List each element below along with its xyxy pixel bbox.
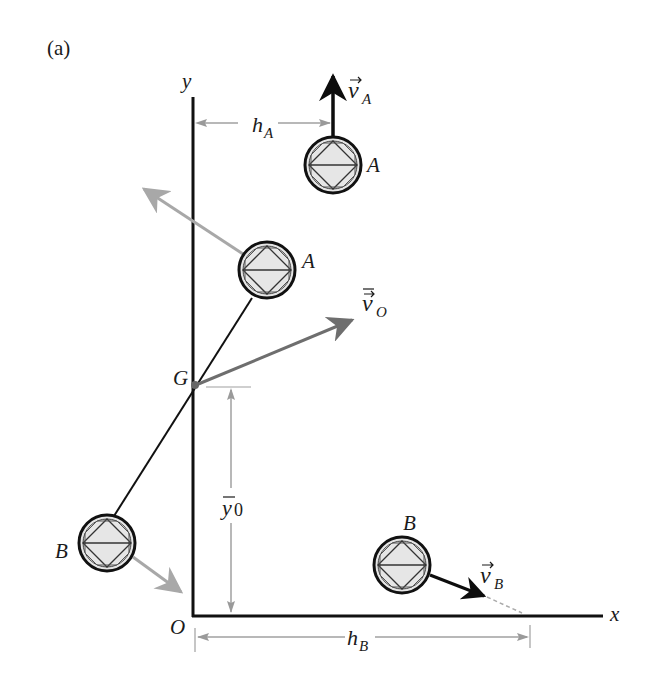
svg-text:B: B	[359, 638, 368, 654]
panel-label: (a)	[47, 36, 70, 60]
ha-dimension: h A	[195, 112, 331, 141]
svg-text:A: A	[263, 125, 274, 141]
svg-text:O: O	[376, 304, 387, 320]
svg-text:A: A	[361, 91, 372, 107]
sphere-b-final-label: B	[403, 511, 416, 535]
velocity-arrow-b-initial	[133, 557, 181, 592]
origin-label: O	[170, 615, 185, 639]
center-of-mass-point	[191, 381, 199, 389]
x-axis-label: x	[609, 602, 620, 626]
va-label: v A	[348, 77, 372, 107]
vo-label: v O	[362, 289, 387, 320]
svg-text:y: y	[220, 495, 232, 520]
y0-dimension: y 0	[206, 387, 251, 613]
vb-label: v B	[480, 562, 503, 592]
sphere-b-final	[374, 537, 430, 593]
svg-text:0: 0	[234, 500, 243, 520]
svg-text:h: h	[347, 625, 358, 650]
y-axis-label: y	[180, 69, 192, 93]
momentum-diagram: (a) y x O A B G A v A h A v	[0, 0, 653, 685]
center-of-mass-label: G	[173, 366, 188, 390]
svg-text:B: B	[494, 576, 503, 592]
sphere-a-initial	[239, 242, 295, 298]
hb-dimension: h B	[195, 625, 530, 654]
sphere-b-initial-label: B	[55, 539, 68, 563]
velocity-arrow-vb	[430, 575, 484, 596]
svg-text:v: v	[480, 562, 491, 588]
vb-extension-dashed	[487, 597, 522, 613]
sphere-a-initial-label: A	[300, 249, 315, 273]
sphere-a-final-label: A	[365, 153, 380, 177]
svg-text:h: h	[252, 112, 263, 137]
svg-text:v: v	[348, 77, 359, 103]
sphere-b-initial	[79, 515, 135, 571]
velocity-arrow-vo	[196, 320, 352, 385]
sphere-a-final	[305, 137, 361, 193]
